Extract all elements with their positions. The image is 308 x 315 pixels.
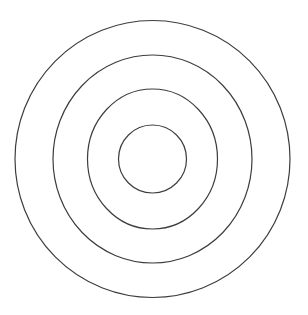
inner-circle xyxy=(119,125,187,193)
third-circle xyxy=(88,89,218,229)
second-circle xyxy=(53,55,252,263)
circles-canvas xyxy=(0,0,308,315)
outer-circle xyxy=(15,21,290,298)
concentric-circles-figure xyxy=(0,0,308,315)
